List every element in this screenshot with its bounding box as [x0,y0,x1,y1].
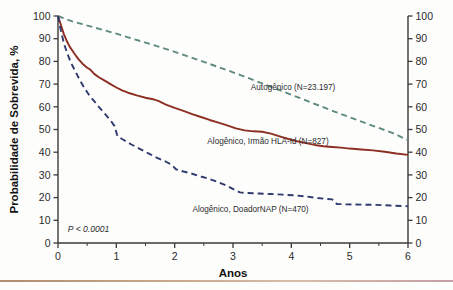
y-tick-label-left: 70 [39,78,51,90]
y-tick-label-left: 30 [39,169,51,181]
y-tick-label-left: 20 [39,191,51,203]
y-tick-label-right: 70 [416,78,428,90]
series-label-1: Alogênico, Irmão HLA-Id (N=827) [207,137,329,146]
series-line-1 [58,16,408,155]
y-tick-label-right: 80 [416,55,428,67]
series-label-0: Autogênico (N=23.197) [251,83,336,92]
x-tick-label: 0 [55,250,61,262]
y-tick-label-left: 90 [39,32,51,44]
y-tick-label-left: 100 [33,10,51,22]
y-tick-label-left: 50 [39,123,51,135]
x-tick-label: 3 [230,250,236,262]
y-tick-label-right: 90 [416,32,428,44]
footer-divider [0,280,453,282]
y-tick-label-right: 10 [416,214,428,226]
pvalue-annotation: P < 0.0001 [68,224,110,234]
survival-chart-svg: 0010102020303040405050606070708080909010… [0,0,453,290]
x-tick-label: 1 [113,250,119,262]
y-axis-title: Probabilidade de Sobrevida, % [8,45,20,213]
survival-chart-figure: 0010102020303040405050606070708080909010… [0,0,453,290]
x-tick-label: 2 [172,250,178,262]
y-tick-label-right: 0 [416,237,422,249]
x-axis-title: Anos [219,267,248,279]
chart-labels: Autogênico (N=23.197)Alogênico, Irmão HL… [68,83,336,234]
y-tick-label-left: 0 [45,237,51,249]
x-tick-label: 6 [405,250,411,262]
chart-series [58,16,408,206]
y-tick-label-left: 60 [39,101,51,113]
x-tick-label: 4 [288,250,294,262]
series-line-0 [58,16,408,140]
y-tick-label-right: 50 [416,123,428,135]
y-tick-label-left: 10 [39,214,51,226]
y-tick-label-right: 40 [416,146,428,158]
y-tick-label-left: 80 [39,55,51,67]
x-tick-label: 5 [347,250,353,262]
y-tick-label-right: 20 [416,191,428,203]
y-tick-label-left: 40 [39,146,51,158]
y-tick-label-right: 100 [416,10,434,22]
y-tick-label-right: 30 [416,169,428,181]
series-line-2 [58,16,408,206]
series-label-2: Alogênico, DoadorNAP (N=470) [192,205,308,214]
y-tick-label-right: 60 [416,101,428,113]
